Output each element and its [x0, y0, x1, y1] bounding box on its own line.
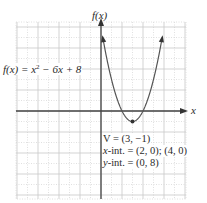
- axes: [16, 18, 188, 199]
- x-intercepts-annotation: x-int. = (2, 0); (4, 0): [103, 145, 187, 157]
- y-axis-label: f(x): [92, 9, 107, 21]
- vertex-annotation: V = (3, −1): [103, 133, 150, 145]
- function-label-prefix: f(x) = x: [3, 63, 36, 75]
- curve-arrow-left-icon: [101, 35, 106, 42]
- curve-arrow-right-icon: [159, 35, 164, 42]
- vertex-point: [131, 120, 135, 124]
- y-intercept-annotation: y-int. = (0, 8): [103, 157, 159, 169]
- x-int-text: -int. = (2, 0); (4, 0): [108, 145, 187, 156]
- y-int-text: -int. = (0, 8): [108, 157, 159, 168]
- x-axis-label: x: [191, 104, 196, 116]
- function-label: f(x) = x2 − 6x + 8: [3, 63, 82, 75]
- coordinate-plane: [0, 0, 207, 203]
- function-label-suffix: − 6x + 8: [40, 63, 82, 75]
- graph-figure: f(x) = x2 − 6x + 8 f(x) x V = (3, −1) x-…: [0, 0, 207, 203]
- x-axis-arrow-icon: [180, 108, 188, 114]
